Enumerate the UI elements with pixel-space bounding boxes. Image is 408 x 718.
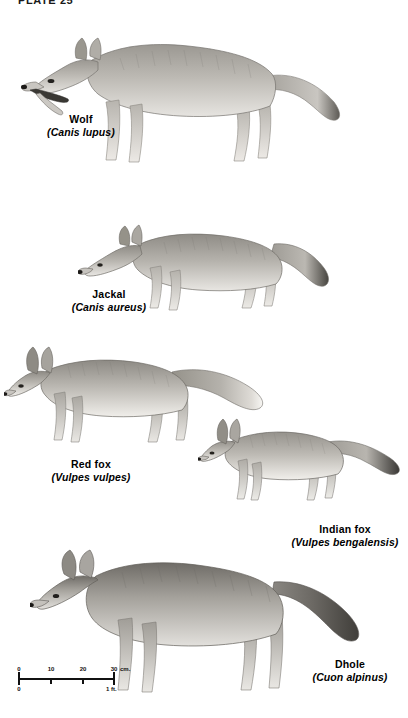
wolf-scientific-name: (Canis lupus)	[16, 126, 146, 139]
scale-unit-ft: 1 ft.	[106, 686, 117, 692]
figure-indian-fox	[198, 404, 408, 514]
plate-page: PLATE 25	[0, 0, 408, 718]
indian-fox-common-name: Indian fox	[282, 523, 408, 536]
scale-tick-30	[113, 672, 115, 685]
indian-fox-illustration	[198, 404, 408, 514]
wolf-common-name: Wolf	[16, 113, 146, 126]
scale-label-ft-0: 0	[17, 686, 20, 692]
scale-bar: 0 10 20 30 cm. 0 1 ft.	[6, 662, 126, 696]
scale-bar-line	[18, 678, 114, 680]
scale-tick-20	[82, 678, 84, 684]
jackal-common-name: Jackal	[44, 288, 174, 301]
jackal-scientific-name: (Canis aureus)	[44, 301, 174, 314]
red-fox-scientific-name: (Vulpes vulpes)	[26, 471, 156, 484]
scale-label-cm-0: 0	[17, 666, 20, 672]
dhole-scientific-name: (Cuon alpinus)	[292, 671, 408, 684]
plate-header: PLATE 25	[18, 0, 73, 6]
scale-label-cm-10: 10	[48, 666, 55, 672]
figure-wolf	[20, 18, 350, 178]
wolf-illustration	[20, 18, 350, 178]
scale-tick-10	[50, 678, 52, 684]
scale-label-cm-30: 30	[111, 666, 118, 672]
label-wolf: Wolf (Canis lupus)	[16, 113, 146, 140]
scale-tick-0	[18, 672, 20, 685]
label-red-fox: Red fox (Vulpes vulpes)	[26, 458, 156, 485]
label-jackal: Jackal (Canis aureus)	[44, 288, 174, 315]
scale-unit-cm: cm.	[120, 666, 130, 672]
dhole-common-name: Dhole	[292, 658, 408, 671]
scale-label-cm-20: 20	[80, 666, 87, 672]
label-dhole: Dhole (Cuon alpinus)	[292, 658, 408, 685]
red-fox-common-name: Red fox	[26, 458, 156, 471]
